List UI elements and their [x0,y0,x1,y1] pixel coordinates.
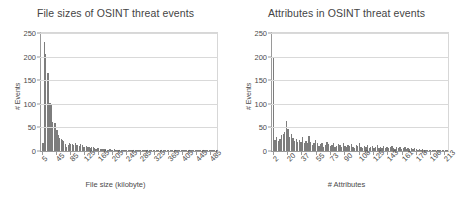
gridline [40,127,218,128]
y-axis-tick-mark [37,33,40,34]
y-axis-tick-label: 50 [259,123,267,132]
y-axis-tick-mark [37,56,40,57]
gridline [271,80,449,81]
plot-area-attributes: # Events 0501001502002502203755739010812… [271,32,449,152]
y-axis-tick-label: 200 [254,52,267,61]
chart-title-file-sizes: File sizes of OSINT threat events [0,7,231,19]
y-axis-label-attributes: # Events [245,83,252,110]
x-axis-tick-label: 5 [40,154,49,163]
x-axis-tick-label: 2 [271,154,280,163]
y-axis-tick-mark [268,103,271,104]
y-axis-tick-label: 50 [28,123,36,132]
y-axis-tick-mark [37,127,40,128]
gridline [271,33,449,34]
y-axis-tick-label: 100 [254,99,267,108]
y-axis-tick-label: 100 [23,99,36,108]
y-axis-tick-mark [268,33,271,34]
y-axis-tick-mark [268,56,271,57]
y-axis-tick-label: 0 [263,147,267,156]
x-axis-tick-label: 45 [54,151,66,163]
gridline [40,104,218,105]
chart-panel-attributes: Attributes in OSINT threat events # Even… [231,0,462,201]
y-axis-tick-label: 150 [254,76,267,85]
y-axis-tick-mark [37,151,40,152]
figure-canvas: File sizes of OSINT threat events # Even… [0,0,463,201]
gridline [40,80,218,81]
x-axis-tick-label: 85 [68,151,80,163]
chart-panel-file-sizes: File sizes of OSINT threat events # Even… [0,0,231,201]
y-axis-tick-label: 250 [254,29,267,38]
x-axis-tick-label: 73 [328,151,340,163]
y-axis-tick-label: 200 [23,52,36,61]
gridline [271,57,449,58]
gridline [271,104,449,105]
plot-area-file-sizes: # Events 0501001502002505458512516520524… [40,32,218,152]
y-axis-tick-label: 250 [23,29,36,38]
gridline [40,33,218,34]
x-axis-label-attributes: # Attributes [231,180,462,189]
y-axis-tick-mark [268,80,271,81]
gridline [40,57,218,58]
y-axis-label-file-sizes: # Events [14,83,21,110]
y-axis-tick-mark [268,151,271,152]
y-axis-tick-label: 0 [32,147,36,156]
y-axis-tick-mark [268,127,271,128]
y-axis-tick-mark [37,103,40,104]
gridline [271,127,449,128]
y-axis-tick-mark [37,80,40,81]
x-axis-label-file-sizes: File size (kilobyte) [0,180,231,189]
bar-series-attributes [272,33,448,151]
bar-series-file-sizes [41,33,217,151]
x-axis-tick-label: 20 [285,151,297,163]
y-axis-tick-label: 150 [23,76,36,85]
chart-title-attributes: Attributes in OSINT threat events [231,7,462,19]
